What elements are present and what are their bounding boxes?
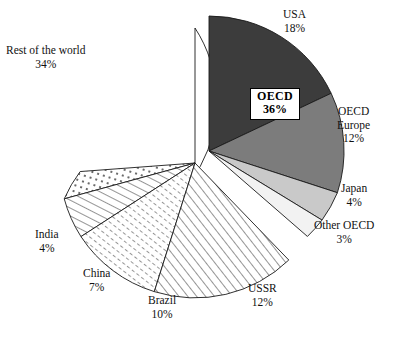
slice-label-japan: Japan 4% [341, 182, 367, 209]
slice-label-other-oecd: Other OECD 3% [314, 219, 374, 246]
slice-label-brazil: Brazil 10% [148, 294, 176, 321]
slice-label-value: 12% [248, 296, 277, 310]
slice-label-rest-of-the-world: Rest of the world 34% [6, 44, 86, 71]
slice-label-india: India 4% [35, 228, 59, 255]
slice-label-name: USSR [248, 282, 277, 296]
slice-label-usa: USA 18% [283, 8, 306, 35]
slice-label-value: 4% [35, 242, 59, 256]
slice-label-oecd-europe: OECD Europe 12% [337, 105, 370, 146]
slice-label-value: 34% [6, 58, 86, 72]
slice-label-name: India [35, 228, 59, 242]
slice-label-name: Other OECD [314, 219, 374, 233]
slice-label-name: Rest of the world [6, 44, 86, 58]
slice-label-china: China 7% [83, 267, 110, 294]
slice-label-value: 7% [83, 281, 110, 295]
slice-label-value: 10% [148, 308, 176, 322]
slice-label-name-line2: Europe [337, 119, 370, 133]
oecd-group-callout: OECD 36% [250, 88, 300, 120]
slice-label-ussr: USSR 12% [248, 282, 277, 309]
oecd-callout-value: 36% [257, 103, 293, 116]
oecd-callout-label: OECD [257, 90, 293, 103]
slice-label-value: 12% [337, 132, 370, 146]
slice-label-name: China [83, 267, 110, 281]
slice-label-value: 4% [341, 196, 367, 210]
slice-label-name: Japan [341, 182, 367, 196]
slice-label-value: 18% [283, 22, 306, 36]
slice-label-name-line1: OECD [337, 105, 370, 119]
slice-label-name: USA [283, 8, 306, 22]
slice-label-value: 3% [314, 233, 374, 247]
slice-label-name: Brazil [148, 294, 176, 308]
pie-chart: Rest of the world 34% USA 18% OECD Europ… [0, 0, 398, 337]
